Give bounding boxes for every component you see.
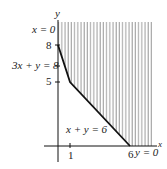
feasible-region-plot — [0, 0, 167, 169]
constraint-3x-y-8-label: 3x + y = 8 — [12, 60, 59, 71]
x-tick-6: 6 — [128, 149, 134, 160]
y-axis-label: y — [55, 8, 60, 19]
constraint-x-y-6-label: x + y = 6 — [66, 124, 107, 135]
x-eq-0-label: x = 0 — [32, 24, 55, 35]
y-tick-5: 5 — [46, 76, 52, 87]
x-axis-label: x — [158, 140, 162, 149]
y-tick-8: 8 — [46, 40, 52, 51]
x-tick-1: 1 — [68, 150, 74, 161]
y-eq-0-label: y = 0 — [135, 147, 158, 158]
